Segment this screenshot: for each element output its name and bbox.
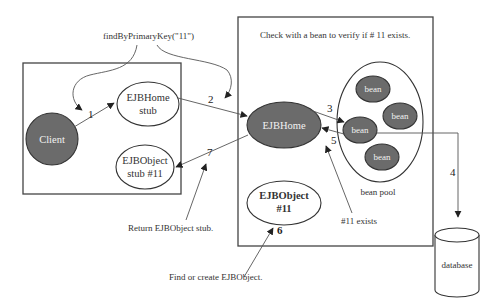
exists-pointer <box>326 146 352 213</box>
find-call-label: findByPrimaryKey("11") <box>103 31 194 41</box>
exists-label: #11 exists <box>341 216 377 226</box>
client-label: Client <box>39 134 65 145</box>
edge-1 <box>74 103 114 127</box>
ejbobject-line1: EJBObject <box>259 190 309 201</box>
bean-label: bean <box>365 84 382 94</box>
ejbhome-label: EJBHome <box>262 120 306 131</box>
bean-label: bean <box>352 125 369 135</box>
bean-label: bean <box>392 111 409 121</box>
ejbobject-line2: #11 <box>276 203 291 214</box>
step-3-label: 3 <box>327 102 333 114</box>
step-4-label: 4 <box>450 166 456 178</box>
find-or-create-label: Find or create EJBObject. <box>169 272 262 282</box>
ejbobject-stub-line2: stub #11 <box>127 168 163 179</box>
ejbobject-stub-line1: EJBObject <box>122 155 168 166</box>
ejbobject-stub-node <box>116 145 174 189</box>
step-1-label: 1 <box>88 108 94 120</box>
ejb-diagram: findByPrimaryKey("11") Check with a bean… <box>0 0 501 306</box>
check-bean-label: Check with a bean to verify if # 11 exis… <box>260 30 410 40</box>
bean-pool-label: bean pool <box>360 187 396 197</box>
return-stub-pointer <box>186 164 206 220</box>
step-7-label: 7 <box>207 146 213 158</box>
bean-label: bean <box>374 152 391 162</box>
find-or-create-pointer <box>244 228 273 277</box>
ejbhome-stub-node <box>117 82 179 126</box>
ejbhome-stub-line2: stub <box>139 105 157 116</box>
database-label: database <box>442 260 473 270</box>
step-5-label: 5 <box>331 134 337 146</box>
step-2-label: 2 <box>208 93 214 105</box>
return-stub-label: Return EJBObject stub. <box>128 223 213 233</box>
ejbhome-stub-line1: EJBHome <box>126 92 170 103</box>
step-6-label: 6 <box>277 224 283 236</box>
